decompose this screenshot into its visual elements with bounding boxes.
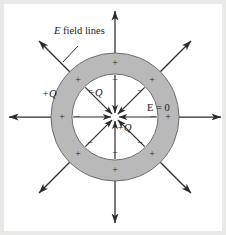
label-inner-surface-charge: −Q	[88, 87, 103, 98]
inner-charge-lower-right: −	[137, 137, 143, 148]
label-outer-charge: +Q	[42, 88, 57, 99]
outer-charge-bottom: +	[112, 164, 118, 175]
inner-charge-top: −	[112, 74, 118, 85]
label-field-zero: E = 0	[147, 102, 170, 113]
label-field-lines: E field lines	[53, 25, 105, 36]
inner-charge-upper-right: −	[137, 85, 143, 96]
label-center-charge: +Q	[117, 122, 132, 133]
physics-figure: + + + + + + + + − − − − − − − − E field …	[0, 0, 226, 235]
inner-charge-bottom: −	[112, 147, 118, 158]
outer-charge-lower-right: +	[149, 148, 155, 159]
outer-charge-upper-right: +	[149, 74, 155, 85]
outer-charge-left: +	[59, 111, 65, 122]
outer-charge-upper-left: +	[75, 74, 81, 85]
inner-charge-lower-left: −	[87, 137, 93, 148]
inner-charge-left: −	[74, 111, 80, 122]
outer-charge-lower-left: +	[75, 148, 81, 159]
field-diagram-svg: + + + + + + + + − − − − − − − − E field …	[0, 0, 226, 235]
outer-charge-top: +	[112, 57, 118, 68]
label-field-lines-rest: field lines	[60, 25, 104, 36]
